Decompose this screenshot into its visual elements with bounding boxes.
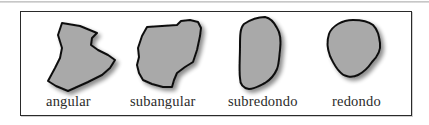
label-subangular: subangular bbox=[130, 93, 196, 110]
label-subredondo: subredondo bbox=[228, 93, 298, 110]
label-redondo: redondo bbox=[332, 93, 381, 110]
label-angular: angular bbox=[46, 93, 91, 110]
subrounded-grain-icon bbox=[240, 17, 281, 89]
rounded-grain-icon bbox=[328, 20, 381, 77]
angular-grain-icon bbox=[48, 23, 115, 91]
subangular-grain-icon bbox=[137, 20, 201, 87]
